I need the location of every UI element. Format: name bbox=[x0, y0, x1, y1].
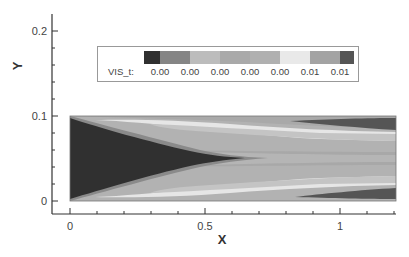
legend-swatch-5 bbox=[250, 51, 280, 64]
y-tick-0.1: 0.1 bbox=[32, 110, 47, 122]
legend-value: 0.01 bbox=[325, 66, 355, 77]
y-tick-0: 0 bbox=[41, 195, 47, 207]
legend-value: 0.00 bbox=[145, 66, 175, 77]
legend-value: 0.00 bbox=[205, 66, 235, 77]
legend-value: 0.00 bbox=[175, 66, 205, 77]
legend-swatch-7 bbox=[310, 51, 340, 64]
x-tick-1: 1 bbox=[337, 220, 343, 232]
contour-plot: 0.2 0.1 0 Y 0 0.5 1 X bbox=[0, 0, 409, 257]
legend-swatch-6 bbox=[280, 51, 310, 64]
legend-swatch-8 bbox=[340, 51, 354, 64]
contour-legend: VIS_t: 0.00 0.00 0.00 0.00 0.00 0.01 0.0… bbox=[97, 46, 359, 82]
y-tick-0.2: 0.2 bbox=[32, 25, 47, 37]
legend-swatch-4 bbox=[220, 51, 250, 64]
y-axis: 0.2 0.1 0 Y bbox=[10, 14, 58, 214]
x-axis: 0 0.5 1 X bbox=[52, 208, 396, 247]
legend-value: 0.00 bbox=[265, 66, 295, 77]
legend-value: 0.00 bbox=[235, 66, 265, 77]
legend-variable-label: VIS_t: bbox=[108, 66, 134, 77]
x-tick-0.5: 0.5 bbox=[197, 220, 212, 232]
contour-field bbox=[70, 116, 396, 201]
legend-swatch-2 bbox=[160, 51, 190, 64]
x-tick-0: 0 bbox=[67, 220, 73, 232]
legend-swatch-3 bbox=[190, 51, 220, 64]
x-axis-title: X bbox=[218, 232, 227, 247]
legend-value: 0.01 bbox=[295, 66, 325, 77]
legend-swatch-1 bbox=[144, 51, 160, 64]
y-axis-title: Y bbox=[10, 61, 25, 70]
